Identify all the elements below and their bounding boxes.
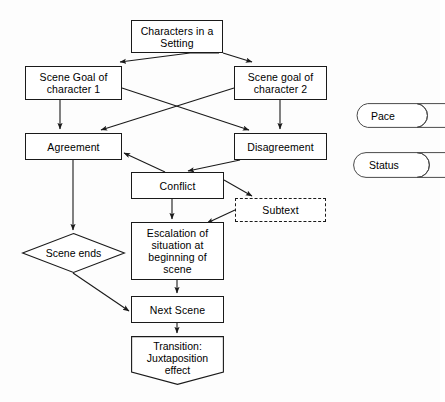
node-label: Conflict [158,180,198,192]
node-label: Characters in a Setting [139,25,216,49]
node-label: Scene Goal of character 1 [38,71,110,95]
side-shape-label: Pace [371,110,395,122]
side-shape-status[interactable]: Status [353,152,445,178]
node-disagreement[interactable]: Disagreement [234,133,327,160]
node-transition-juxtaposition-effect[interactable]: Transition: Juxtaposition effect [131,336,224,385]
edge-characters-to-goal2 [223,53,252,62]
node-label: Scene ends [46,247,101,259]
node-label: Next Scene [148,304,207,316]
delay-shape-icon [355,103,445,128]
node-agreement[interactable]: Agreement [25,133,122,160]
edge-conflict-to-subtext [224,180,252,196]
node-label: Subtext [260,204,300,216]
edge-disagreement-to-conflict [188,160,240,171]
node-subtext[interactable]: Subtext [235,198,326,222]
edge-goal1-to-disagreement [122,88,249,130]
side-shape-pace[interactable]: Pace [355,103,445,128]
node-label: Disagreement [245,141,316,153]
node-scene-goal-of-character-2[interactable]: Scene goal of character 2 [234,66,327,100]
node-characters-in-a-setting[interactable]: Characters in a Setting [131,20,223,53]
node-label: Transition: Juxtaposition effect [147,340,208,376]
edge-sceneends-to-nextscene [73,273,129,311]
edge-conflict-to-agreement [124,153,165,172]
node-label: Escalation of situation at beginning of … [145,227,210,275]
node-label: Agreement [45,141,101,153]
delay-shape-icon [353,152,445,178]
edge-characters-to-goal1 [120,53,219,62]
node-next-scene[interactable]: Next Scene [131,296,224,323]
node-scene-goal-of-character-1[interactable]: Scene Goal of character 1 [25,66,122,100]
node-escalation-of-situation[interactable]: Escalation of situation at beginning of … [131,222,224,280]
side-shape-label: Status [369,159,399,171]
node-conflict[interactable]: Conflict [131,172,224,199]
node-scene-ends[interactable]: Scene ends [22,233,125,273]
node-label: Scene goal of character 2 [246,71,316,95]
